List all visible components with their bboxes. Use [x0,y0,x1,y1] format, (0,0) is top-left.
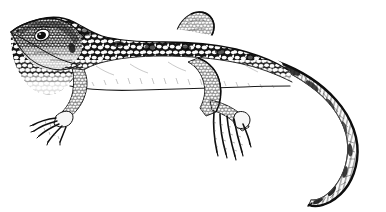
lizard-illustration [0,0,386,212]
illustration-canvas: Black and white ink illustration of a li… [0,0,386,212]
